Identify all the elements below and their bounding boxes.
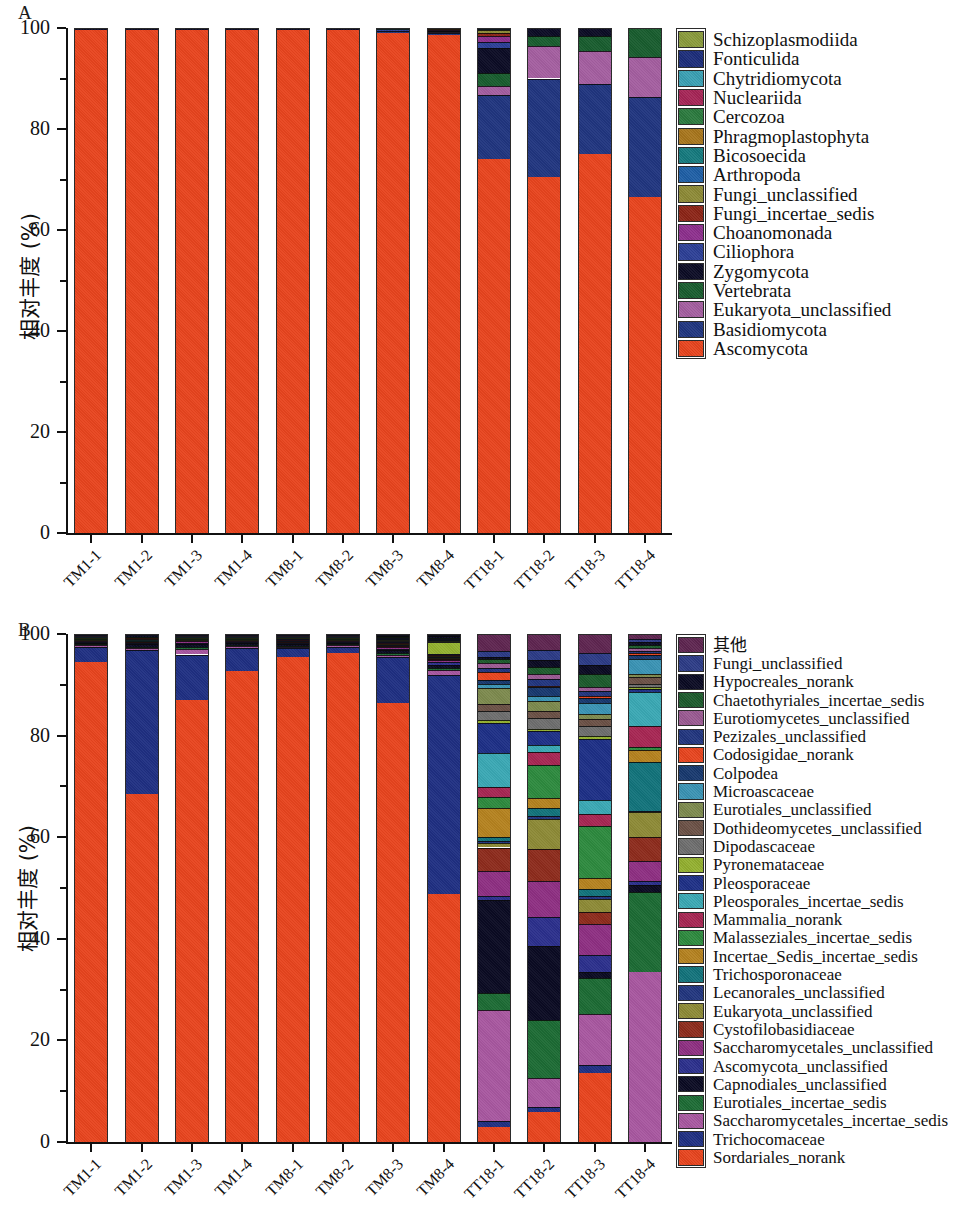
legend-item-label: Nucleariida	[713, 88, 802, 107]
legend-item[interactable]: Chytridiomycota	[678, 69, 842, 88]
legend-item[interactable]: Pezizales_unclassified	[678, 728, 866, 746]
legend-item[interactable]: Malasseziales_incertae_sedis	[678, 929, 912, 947]
legend-item[interactable]: Eukaryota_unclassified	[678, 300, 891, 319]
x-axis-tick	[342, 1143, 344, 1152]
bar-TT18-1[interactable]	[477, 28, 511, 533]
legend-item[interactable]: Eurotiomycetes_unclassified	[678, 709, 909, 727]
bar-TM1-3[interactable]	[175, 28, 209, 533]
bar-top-edge	[277, 634, 309, 635]
bar-TT18-2[interactable]	[527, 634, 561, 1142]
bar-segment-Saccharomycetales_incertae_sedis	[528, 1078, 560, 1107]
bar-segment-Trichosporonaceae	[528, 808, 560, 815]
legend-item[interactable]: Saccharomycetales_unclassified	[678, 1039, 933, 1057]
x-axis-tick	[594, 534, 596, 543]
legend-item[interactable]: Capnodiales_unclassified	[678, 1075, 887, 1093]
bar-TM8-2[interactable]	[326, 28, 360, 533]
legend-item[interactable]: Fonticulida	[678, 49, 800, 68]
bar-TT18-1[interactable]	[477, 634, 511, 1142]
bar-segment-Malasseziales_incertae_sedis	[579, 826, 611, 878]
legend-item[interactable]: Eukaryota_unclassified	[678, 1002, 873, 1020]
legend-color-swatch	[678, 1021, 704, 1037]
bar-TT18-3[interactable]	[578, 28, 612, 533]
legend-item[interactable]: Microascaceae	[678, 782, 814, 800]
bar-top-edge	[629, 634, 661, 635]
legend-item[interactable]: Vertebrata	[678, 281, 791, 300]
legend-item[interactable]: Incertae_Sedis_incertae_sedis	[678, 947, 918, 965]
bar-TM1-1[interactable]	[74, 28, 108, 533]
legend-item[interactable]: Colpodea	[678, 764, 778, 782]
bar-segment-Malasseziales_incertae_sedis	[629, 747, 661, 750]
bar-segment-Saccharomycetales_incertae_sedis	[629, 972, 661, 1142]
legend-item[interactable]: Pleosporaceae	[678, 874, 810, 892]
legend-item[interactable]: Cystofilobasidiaceae	[678, 1020, 855, 1038]
legend-item[interactable]: Sordariales_norank	[678, 1148, 845, 1166]
legend-item[interactable]: Nucleariida	[678, 88, 802, 107]
legend-item[interactable]: Ascomycota_unclassified	[678, 1057, 888, 1075]
legend-item[interactable]: Saccharomycetales_incertae_sedis	[678, 1112, 948, 1130]
legend-color-swatch	[678, 710, 704, 726]
y-axis-tick-label: 60	[0, 826, 50, 846]
legend-item[interactable]: Fungi_unclassified	[678, 654, 842, 672]
legend-item[interactable]: Choanomonada	[678, 223, 832, 242]
bar-TT18-3[interactable]	[578, 634, 612, 1142]
legend-item-label: Zygomycota	[713, 262, 809, 281]
bar-TM8-1[interactable]	[276, 28, 310, 533]
legend-item-label: Dipodascaceae	[713, 838, 815, 855]
bar-TM8-3[interactable]	[376, 28, 410, 533]
legend-color-swatch	[678, 321, 704, 338]
legend-item[interactable]: Cercozoa	[678, 107, 785, 126]
bar-TT18-4[interactable]	[628, 28, 662, 533]
legend-item[interactable]: 其他	[678, 636, 747, 654]
legend-item[interactable]: Phragmoplastophyta	[678, 127, 869, 146]
legend-item[interactable]: Eurotiales_unclassified	[678, 801, 872, 819]
bar-TM8-1[interactable]	[276, 634, 310, 1142]
bar-TM8-2[interactable]	[326, 634, 360, 1142]
legend-item[interactable]: Pyronemataceae	[678, 856, 824, 874]
legend-item[interactable]: Mammalia_norank	[678, 911, 842, 929]
legend-item[interactable]: Eurotiales_incertae_sedis	[678, 1094, 887, 1112]
legend-item[interactable]: Chaetothyriales_incertae_sedis	[678, 691, 924, 709]
bar-TM8-4[interactable]	[427, 634, 461, 1142]
bar-TT18-2[interactable]	[527, 28, 561, 533]
bar-segment-Vertebrata	[629, 28, 661, 57]
bar-TM1-2[interactable]	[125, 634, 159, 1142]
legend-item[interactable]: Pleosporales_incertae_sedis	[678, 892, 904, 910]
legend-item[interactable]: Codosigidae_norank	[678, 746, 854, 764]
legend-item[interactable]: Dothideomycetes_unclassified	[678, 819, 922, 837]
x-axis-tick	[292, 534, 294, 543]
legend-item[interactable]: Ascomycota	[678, 339, 808, 358]
bar-TM1-4[interactable]	[225, 28, 259, 533]
y-axis-minor-tick	[60, 684, 66, 686]
legend-color-swatch	[678, 166, 704, 183]
bar-TM1-3[interactable]	[175, 634, 209, 1142]
bar-segment-Eurotiales_incertae_sedis	[629, 892, 661, 972]
legend-item[interactable]: Trichosporonaceae	[678, 965, 842, 983]
legend-item[interactable]: Ciliophora	[678, 242, 794, 261]
bar-segment-Lecanorales_unclassified	[629, 811, 661, 812]
bar-segment-Fungi_unclassified	[528, 650, 560, 660]
bar-TM8-4[interactable]	[427, 28, 461, 533]
legend-item[interactable]: Fungi_unclassified	[678, 184, 858, 203]
bar-segment-Chaetothyriales_incertae_sedis	[629, 645, 661, 648]
bar-TT18-4[interactable]	[628, 634, 662, 1142]
legend-item[interactable]: Zygomycota	[678, 262, 809, 281]
legend-item[interactable]: Schizoplasmodiida	[678, 30, 858, 49]
bar-TM1-1[interactable]	[74, 634, 108, 1142]
legend-item[interactable]: Hypocreales_norank	[678, 673, 854, 691]
y-axis-tick	[57, 1141, 66, 1143]
legend-item[interactable]: Dipodascaceae	[678, 837, 815, 855]
legend-item[interactable]: Fungi_incertae_sedis	[678, 204, 874, 223]
legend-color-swatch	[678, 802, 704, 818]
bar-TM1-2[interactable]	[125, 28, 159, 533]
legend-item[interactable]: Basidiomycota	[678, 320, 827, 339]
legend-item[interactable]: Arthropoda	[678, 165, 801, 184]
bar-segment-Trichocomaceae	[277, 648, 309, 657]
bar-segment-Chaetothyriales_incertae_sedis	[377, 637, 409, 638]
bar-TM8-3[interactable]	[376, 634, 410, 1142]
legend-item[interactable]: Trichocomaceae	[678, 1130, 825, 1148]
bar-segment-Saccharomycetales_unclassified	[478, 871, 510, 896]
bar-TM1-4[interactable]	[225, 634, 259, 1142]
legend-item[interactable]: Bicosoecida	[678, 146, 806, 165]
legend-item-label: Cystofilobasidiaceae	[713, 1021, 855, 1038]
legend-item[interactable]: Lecanorales_unclassified	[678, 984, 885, 1002]
